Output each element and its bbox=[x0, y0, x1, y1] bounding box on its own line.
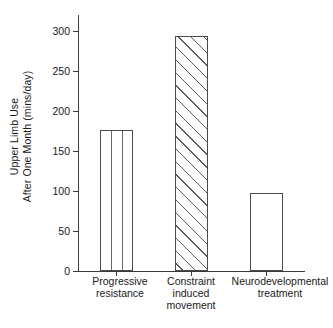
y-axis-title: Upper Limb Use After One Month (mins/day… bbox=[0, 0, 42, 272]
x-label-neurodevelopmental-treatment: Neurodevelopmental treatment bbox=[225, 275, 333, 299]
x-label-constraint-induced-movement: Constraint induced movement bbox=[145, 275, 237, 311]
y-tick-50 bbox=[73, 231, 78, 232]
y-tick-label-0: 0 bbox=[44, 266, 70, 277]
y-tick-label-250: 250 bbox=[44, 66, 70, 77]
x-label-constraint-induced-movement-line-3: movement bbox=[145, 299, 237, 311]
y-tick-0 bbox=[73, 271, 78, 272]
x-label-constraint-induced-movement-line-1: Constraint bbox=[145, 275, 237, 287]
x-label-neurodevelopmental-treatment-line-1: Neurodevelopmental bbox=[225, 275, 333, 287]
y-axis-title-line-1: Upper Limb Use bbox=[9, 70, 22, 202]
y-tick-150 bbox=[73, 151, 78, 152]
bar-neurodevelopmental-treatment bbox=[250, 193, 283, 271]
plot-area: 0 50 100 150 200 250 300 bbox=[78, 15, 305, 271]
y-axis-title-line-2: After One Month (mins/day) bbox=[21, 70, 34, 202]
y-tick-100 bbox=[73, 191, 78, 192]
x-label-constraint-induced-movement-line-2: induced bbox=[145, 287, 237, 299]
y-tick-300 bbox=[73, 31, 78, 32]
bar-constraint-induced-movement bbox=[175, 36, 208, 271]
x-axis-category-labels: Progressive resistance Constraint induce… bbox=[78, 275, 323, 325]
y-tick-labels: 0 50 100 150 200 250 300 bbox=[44, 15, 70, 271]
y-tick-250 bbox=[73, 71, 78, 72]
y-tick-label-300: 300 bbox=[44, 26, 70, 37]
bar-progressive-resistance bbox=[100, 130, 133, 271]
y-tick-label-200: 200 bbox=[44, 106, 70, 117]
y-tick-label-50: 50 bbox=[44, 226, 70, 237]
y-tick-label-150: 150 bbox=[44, 146, 70, 157]
y-tick-label-100: 100 bbox=[44, 186, 70, 197]
y-tick-200 bbox=[73, 111, 78, 112]
x-label-neurodevelopmental-treatment-line-2: treatment bbox=[225, 287, 333, 299]
y-axis-line bbox=[78, 15, 79, 271]
